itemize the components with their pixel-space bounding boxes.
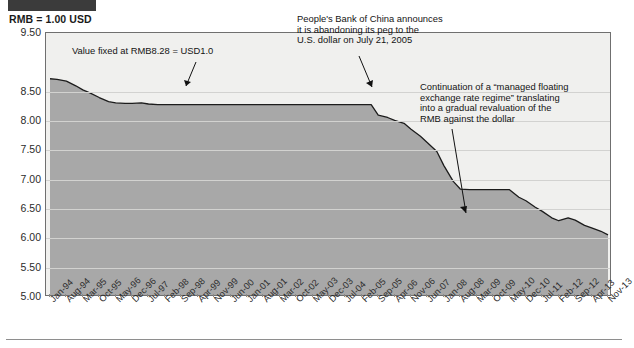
y-tick-label: 9.50 <box>3 26 41 38</box>
annotation-float: Continuation of a “managed floating exch… <box>420 82 569 124</box>
gridline <box>46 180 610 181</box>
y-tick-label: 5.00 <box>3 290 41 302</box>
unit-caption: RMB = 1.00 USD <box>9 13 92 25</box>
gridline <box>46 268 610 269</box>
annotation-peg: Value fixed at RMB8.28 = USD1.0 <box>72 46 213 57</box>
redaction-bar <box>8 0 96 11</box>
y-tick-label: 8.00 <box>3 114 41 126</box>
y-tick-label: 7.50 <box>3 143 41 155</box>
rmb-usd-area-series <box>46 33 611 296</box>
annotation-pbc: People's Bank of China announces it is a… <box>297 14 443 46</box>
y-tick-label: 6.00 <box>3 231 41 243</box>
y-tick-label: 8.50 <box>3 85 41 97</box>
gridline <box>46 150 610 151</box>
y-tick-label: 5.50 <box>3 261 41 273</box>
y-tick-label: 6.50 <box>3 202 41 214</box>
plot-area <box>45 32 611 296</box>
y-axis: 9.508.508.007.507.006.506.005.505.00 <box>0 32 41 296</box>
gridline <box>46 238 610 239</box>
y-tick-label: 7.00 <box>3 173 41 185</box>
figure-bottom-rule <box>6 339 622 340</box>
gridline <box>46 209 610 210</box>
